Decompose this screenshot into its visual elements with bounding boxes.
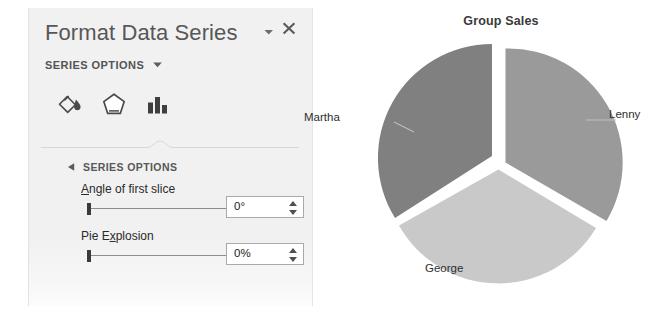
- pie-explosion-spinner[interactable]: 0%: [226, 243, 304, 265]
- spinner-arrows-icon[interactable]: [288, 246, 298, 264]
- series-options-section-header[interactable]: SERIES OPTIONS: [67, 158, 177, 176]
- slider-track: [87, 208, 227, 209]
- series-options-dropdown[interactable]: SERIES OPTIONS: [45, 55, 163, 75]
- angle-of-first-slice-label: Angle of first slice: [81, 182, 175, 196]
- pie-data-label-lenny[interactable]: Lenny: [609, 108, 640, 120]
- angle-of-first-slice-slider[interactable]: [87, 202, 227, 216]
- paint-bucket-icon[interactable]: [51, 86, 91, 122]
- tab-divider: [41, 134, 299, 143]
- bar-chart-icon[interactable]: [139, 86, 179, 122]
- angle-label-rest: ngle of first slice: [89, 182, 175, 196]
- pie-data-label-martha[interactable]: Martha: [304, 111, 340, 123]
- slider-handle[interactable]: [87, 250, 91, 262]
- series-options-section-label: SERIES OPTIONS: [83, 161, 177, 173]
- pie-chart[interactable]: [330, 38, 672, 300]
- chart-area[interactable]: Group Sales Martha Lenny George: [330, 0, 672, 314]
- pane-icon-tabs: [51, 86, 181, 126]
- chevron-down-icon: [152, 56, 163, 74]
- pane-header: Format Data Series: [29, 8, 312, 58]
- explosion-label-rest: plosion: [116, 229, 154, 243]
- series-options-dropdown-label: SERIES OPTIONS: [45, 59, 144, 71]
- explosion-label-pre: Pie E: [81, 229, 110, 243]
- chart-title[interactable]: Group Sales: [330, 14, 672, 28]
- chevron-down-icon[interactable]: [262, 25, 276, 39]
- spinner-arrows-icon[interactable]: [288, 199, 298, 217]
- angle-of-first-slice-spinner[interactable]: 0°: [226, 196, 304, 218]
- angle-accel-letter: A: [81, 182, 89, 196]
- format-data-series-pane: Format Data Series SERIES OPTIONS: [28, 8, 313, 306]
- pentagon-icon[interactable]: [95, 86, 135, 122]
- slider-track: [87, 255, 227, 256]
- pie-explosion-slider[interactable]: [87, 249, 227, 263]
- triangle-collapse-icon: [67, 158, 76, 176]
- explosion-value: 0%: [234, 247, 251, 259]
- pane-title: Format Data Series: [45, 20, 238, 46]
- slider-handle[interactable]: [87, 203, 91, 215]
- angle-value: 0°: [234, 200, 245, 212]
- pie-data-label-george[interactable]: George: [425, 262, 463, 274]
- close-icon[interactable]: [281, 21, 297, 37]
- pie-explosion-label: Pie Explosion: [81, 229, 154, 243]
